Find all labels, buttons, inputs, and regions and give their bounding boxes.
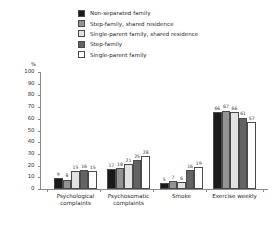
y-axis-tick-label: 20 [28,162,35,168]
bar-item[interactable]: 16 [80,72,89,189]
chart-legend: Non-separated familyStep-family, shared … [78,8,258,60]
legend-item[interactable]: Single-parent family [78,50,258,60]
bar[interactable] [124,164,133,189]
legend-swatch-icon [78,10,85,17]
bar-item[interactable]: 17 [107,72,116,189]
bar-item[interactable]: 8 [63,72,72,189]
bar-value-label: 61 [240,111,246,116]
legend-item-label: Single-parent family [90,52,147,58]
bar-item[interactable]: 15 [88,72,97,189]
plot-area: % 1009080706050403020100 98151615Psychol… [40,72,268,189]
legend-swatch-icon [78,30,85,37]
y-axis-tick-label: 70 [28,103,35,109]
bar-group: 98151615Psychological complaints [54,72,97,189]
y-axis-tick: 30 [38,154,41,155]
bar-value-label: 15 [73,165,79,170]
y-axis-tick: 10 [38,177,41,178]
legend-swatch-icon [78,20,85,27]
y-axis-tick: 40 [38,142,41,143]
x-axis-tick [263,189,264,192]
y-axis-tick-label: 100 [24,68,34,74]
bar-item[interactable]: 66 [213,72,222,189]
bar-value-label: 57 [249,116,255,121]
bar-group: 1718212528Psychosomatic complaints [107,72,150,189]
bar-value-label: 9 [57,172,60,177]
y-axis-unit-label: % [31,61,36,67]
y-axis-tick-label: 40 [28,138,35,144]
bar[interactable] [54,178,63,189]
bar-group-bars: 1718212528 [107,72,150,189]
bar-item[interactable]: 66 [230,72,239,189]
bar-value-label: 28 [143,150,149,155]
bar-item[interactable]: 5 [160,72,169,189]
bar-value-label: 16 [187,164,193,169]
bar-item[interactable]: 57 [247,72,256,189]
bar[interactable] [88,171,97,189]
bar[interactable] [194,167,203,189]
bar[interactable] [177,182,186,189]
bar-item[interactable]: 67 [222,72,231,189]
bar-item[interactable]: 61 [239,72,248,189]
bar[interactable] [141,156,150,189]
bar-value-label: 16 [81,164,87,169]
bar-item[interactable]: 19 [194,72,203,189]
legend-item[interactable]: Single-parent family, shared residence [78,29,258,39]
bar-item[interactable]: 15 [71,72,80,189]
y-axis-tick: 60 [38,119,41,120]
y-axis-line [40,72,41,189]
bar-value-label: 21 [126,158,132,163]
bar-value-label: 17 [108,163,114,168]
bar[interactable] [133,160,142,189]
bar[interactable] [80,170,89,189]
bar-item[interactable]: 18 [116,72,125,189]
legend-swatch-icon [78,41,85,48]
bar-group: 5761619Smoke [160,72,203,189]
legend-item-label: Step-family [90,41,122,47]
bar[interactable] [107,169,116,189]
bar[interactable] [222,111,231,189]
y-axis-tick-label: 50 [28,127,35,133]
bar-value-label: 5 [163,177,166,182]
x-axis-tick [206,189,207,192]
bar[interactable] [116,168,125,189]
bar-value-label: 66 [214,106,220,111]
bar[interactable] [213,112,222,189]
bar-item[interactable]: 7 [169,72,178,189]
bar-item[interactable]: 25 [133,72,142,189]
legend-item[interactable]: Non-separated family [78,8,258,18]
bar-group-bars: 98151615 [54,72,97,189]
bar[interactable] [169,181,178,189]
legend-item[interactable]: Step-family [78,39,258,49]
bar[interactable] [71,171,80,189]
bar-item[interactable]: 21 [124,72,133,189]
bar-item[interactable]: 9 [54,72,63,189]
legend-item-label: Step-family, shared residence [90,21,174,27]
legend-swatch-icon [78,51,85,58]
legend-item-label: Single-parent family, shared residence [90,31,198,37]
bar-item[interactable]: 28 [141,72,150,189]
x-axis-category-label: Exercise weekly [204,193,266,200]
bar[interactable] [230,112,239,189]
bar-value-label: 8 [65,173,68,178]
y-axis-tick-label: 90 [28,80,35,86]
bar[interactable] [239,118,248,189]
y-axis-tick: 100 [38,72,41,73]
bar[interactable] [63,180,72,189]
bar[interactable] [247,122,256,189]
bar-value-label: 19 [196,161,202,166]
y-axis-tick: 50 [38,131,41,132]
legend-item-label: Non-separated family [90,10,150,16]
y-axis-tick-label: 0 [31,185,34,191]
bar-item[interactable]: 6 [177,72,186,189]
bar[interactable] [160,183,169,189]
bar-value-label: 66 [232,106,238,111]
bar-value-label: 25 [134,154,140,159]
y-axis-tick: 0 [38,189,41,190]
bar-value-label: 7 [171,175,174,180]
y-axis-tick: 70 [38,107,41,108]
x-axis-tick [153,189,154,192]
bar-item[interactable]: 16 [186,72,195,189]
bar[interactable] [186,170,195,189]
y-axis-tick-label: 10 [28,173,35,179]
legend-item[interactable]: Step-family, shared residence [78,18,258,28]
